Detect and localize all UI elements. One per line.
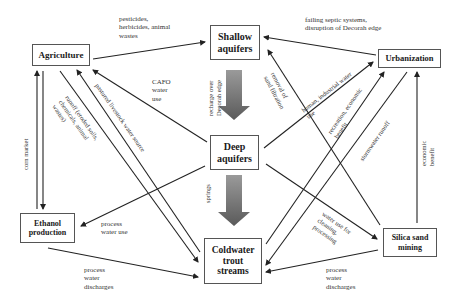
node-shallow-aquifers: Shallow aquifers xyxy=(210,25,260,60)
label-ag-to-shallow: pesticides, herbicides, animal wastes xyxy=(119,15,179,40)
label-recharge: recharge over Decorah edge xyxy=(207,76,223,116)
label-mining-discharges: process water discharges xyxy=(326,266,362,291)
node-deep-aquifers: Deep aquifers xyxy=(210,135,259,170)
node-coldwater-trout-streams: Coldwater trout streams xyxy=(204,238,262,284)
label-process-water-use: process water use xyxy=(101,220,139,237)
label-ethanol-discharges: process water discharges xyxy=(84,266,118,291)
springs-arrow xyxy=(218,175,250,226)
recharge-arrow xyxy=(218,70,250,120)
node-urbanization: Urbanization xyxy=(378,49,441,68)
label-cafo: CAFO water use xyxy=(152,78,178,103)
label-economic-benefit: economic benefit xyxy=(420,136,436,166)
node-agriculture: Agriculture xyxy=(32,44,90,66)
ecosystem-diagram: Agriculture Shallow aquifers Urbanizatio… xyxy=(0,0,457,304)
label-corn-market: corn market xyxy=(22,139,30,170)
label-springs: springs xyxy=(204,184,212,203)
label-urban-to-shallow: failing septic systems, disruption of De… xyxy=(305,16,385,33)
node-ethanol-production: Ethanol production xyxy=(20,213,75,243)
node-silica-sand-mining: Silica sand mining xyxy=(383,228,437,257)
